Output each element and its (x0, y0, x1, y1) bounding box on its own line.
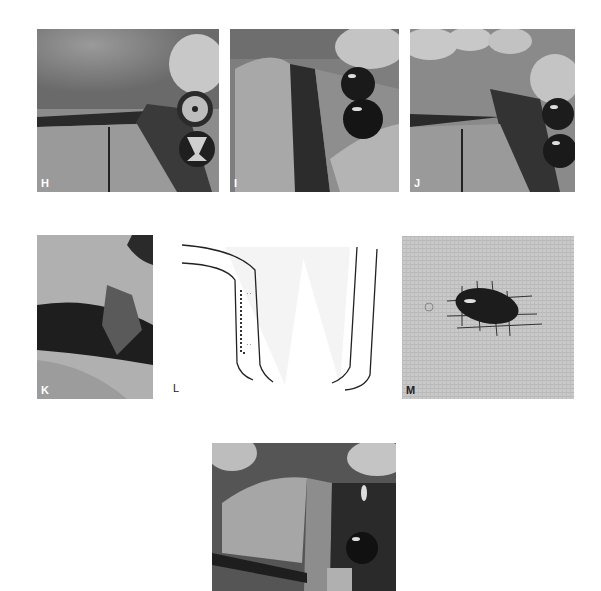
panel-m: M (402, 236, 574, 399)
surgical-photo-i (230, 29, 399, 192)
panel-label-k: K (41, 385, 49, 396)
panel-k: K (37, 235, 153, 399)
panel-label-m: M (406, 385, 415, 396)
panel-label-i: I (234, 178, 237, 189)
flap-schematic-diagram (165, 235, 390, 400)
panel-label-h: H (41, 178, 49, 189)
surgical-photo-j (410, 29, 575, 192)
surgical-photo-k (37, 235, 153, 399)
panel-j: J (410, 29, 575, 192)
panel-label-j: J (414, 178, 420, 189)
surgical-photo-h (37, 29, 219, 192)
panel-h: H (37, 29, 219, 192)
panel-label-l: L (173, 383, 179, 394)
tissue-on-gauze-photo (402, 236, 574, 399)
dotted-incision-line (240, 290, 245, 354)
panel-i: I (230, 29, 399, 192)
panel-n (212, 443, 396, 591)
panel-l: L (165, 235, 390, 400)
graft-placement-photo (212, 443, 396, 591)
